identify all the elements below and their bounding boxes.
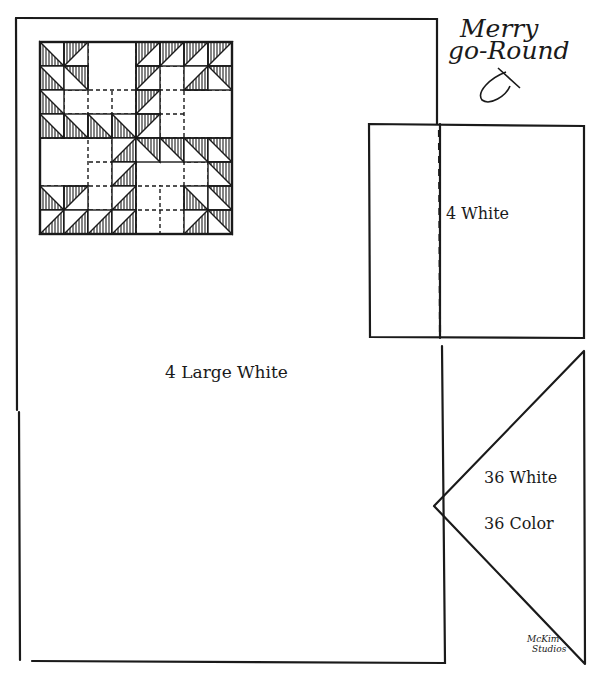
square-white-template bbox=[369, 124, 584, 338]
pattern-title: Merry go-Round bbox=[448, 18, 570, 62]
label-square-white: 4 White bbox=[446, 204, 509, 223]
label-large-white: 4 Large White bbox=[165, 362, 288, 382]
credit-line-2: Studios bbox=[520, 644, 566, 654]
label-triangle-color: 36 Color bbox=[484, 514, 554, 533]
pattern-sheet bbox=[0, 0, 605, 685]
quilt-block-illustration bbox=[40, 42, 232, 234]
credit-line-1: McKim bbox=[520, 634, 566, 644]
title-flourish bbox=[481, 68, 520, 102]
studio-credit: McKim Studios bbox=[520, 634, 566, 654]
title-line-2: go-Round bbox=[448, 40, 570, 62]
label-triangle-white: 36 White bbox=[484, 468, 557, 487]
triangle-template bbox=[434, 351, 585, 664]
